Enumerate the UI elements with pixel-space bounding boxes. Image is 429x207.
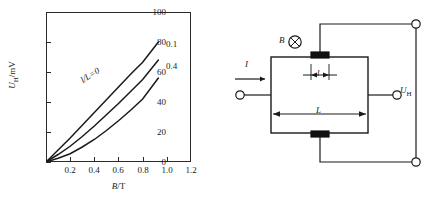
hall-top-wire [320,24,416,52]
crossed-circle-cross [291,38,300,47]
current-label: I [245,60,248,69]
x-tick-label-0.6: 0.6 [107,166,129,175]
curve-label-0.1: 0.1 [166,40,177,49]
small-length-label: l [317,69,320,78]
large-length-arrow-left [273,111,280,117]
y-axis-sub: H [12,77,20,82]
x-tick-label-1.0: 1.0 [156,166,178,175]
curve-0.4 [46,78,158,162]
x-tick-label-0.4: 0.4 [83,166,105,175]
curve-label-0.4: 0.4 [166,62,177,71]
x-tick-label-0.8: 0.8 [132,166,154,175]
large-length-label: L [316,106,321,115]
curve-0.1 [46,60,158,162]
input-current-terminal [236,91,244,99]
hall-voltage-label: UH [400,86,412,99]
small-length-arrow-right [323,73,329,78]
hall-effect-figure: UH/mV 100 80 60 40 20 0 0.2 0.4 0.6 0.8 … [0,0,429,207]
curve-l-over-L-0 [46,42,158,162]
y-axis-unit: /mV [7,61,17,77]
curves-group [46,12,191,162]
hall-voltage-sub: H [407,90,412,98]
hall-bottom-wire [320,137,416,162]
x-axis-unit: /T [117,181,125,191]
magnetic-field-label: B [279,36,285,45]
y-axis-var: U [7,82,17,89]
small-length-extension-lines [311,64,329,80]
bottom-electrode [311,131,329,137]
x-axis-title: B/T [46,181,191,191]
current-arrow-head [260,76,265,81]
hall-voltage-top-terminal [412,20,420,28]
x-tick-label-1.2: 1.2 [180,166,202,175]
x-tick-label-0.2: 0.2 [59,166,81,175]
hall-voltage-chart: UH/mV 100 80 60 40 20 0 0.2 0.4 0.6 0.8 … [0,0,215,207]
y-tick-mark-0 [46,162,51,163]
large-length-arrow-right [359,111,366,117]
top-electrode [311,52,329,58]
hall-device-circuit: B I l L UH [215,0,429,207]
hall-voltage-bottom-terminal [412,158,420,166]
y-axis-title: UH/mV [7,45,21,105]
circuit-drawing [215,0,429,207]
